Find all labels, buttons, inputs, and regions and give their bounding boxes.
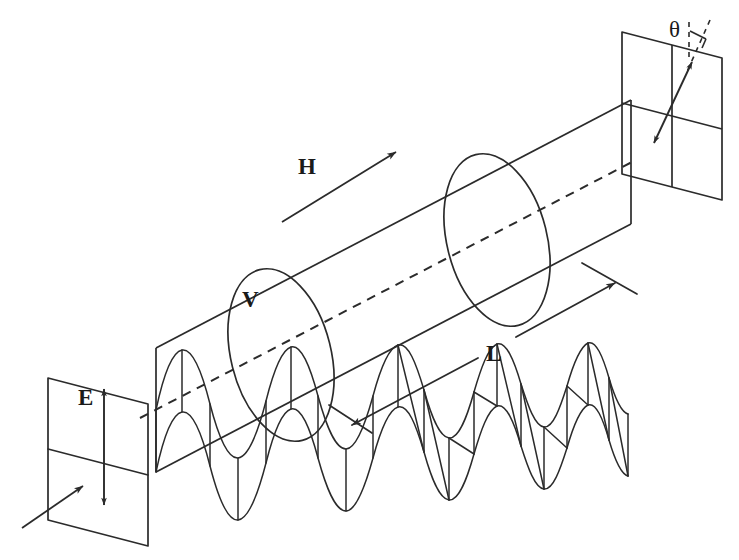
exit-ellipse	[427, 143, 567, 338]
output-polarization-plane	[622, 32, 722, 200]
wave-upper-envelope	[156, 343, 628, 458]
label-vertical-axis: V	[242, 288, 259, 311]
figure-canvas: E V H L θ	[0, 0, 739, 560]
wave-lower-envelope	[156, 405, 628, 520]
entrance-ellipse	[211, 258, 351, 453]
wave-ribbon-edge	[424, 390, 449, 500]
wave-ribbon-edge	[544, 427, 567, 448]
rotating-polarization-wave	[156, 343, 628, 520]
theta-bracket-top	[690, 31, 706, 39]
wave-ribbon-edge	[588, 343, 609, 440]
input-polarization-plane	[48, 378, 148, 546]
wave-ribbon-edge	[609, 378, 628, 476]
faraday-rotation-diagram	[0, 0, 739, 560]
length-extension-right	[582, 263, 637, 294]
wave-ribbon-edge	[567, 386, 588, 405]
label-magnetic-field: H	[298, 155, 316, 178]
theta-bracket-side	[702, 39, 706, 48]
input-plane-horizontal-line	[48, 449, 148, 475]
optical-axis-dashed	[140, 162, 632, 418]
wave-ribbon-edge	[474, 392, 497, 406]
length-dimension	[329, 263, 637, 433]
label-rotation-angle: θ	[669, 18, 680, 41]
wave-band-plane	[156, 100, 631, 472]
rotation-angle-marker	[686, 20, 710, 74]
wave-ribbon-edge	[521, 384, 544, 489]
label-medium-length: L	[486, 341, 502, 365]
length-arrow-right-segment	[516, 283, 615, 337]
label-incident-field: E	[78, 386, 93, 409]
band-top-edge	[156, 100, 631, 348]
rotated-field-arrow	[654, 62, 692, 143]
wave-ribbon-edge	[449, 438, 474, 454]
